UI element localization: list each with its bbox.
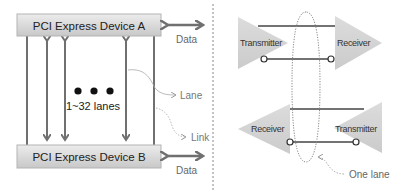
link-callout-label: Link bbox=[191, 132, 210, 143]
one-lane-callout-label: One lane bbox=[349, 169, 390, 180]
lane-count-label: 1~32 lanes bbox=[66, 100, 121, 112]
data-bottom-label: Data bbox=[176, 165, 198, 176]
inverting-node-icon bbox=[287, 139, 293, 145]
right-panel: Transmitter Receiver Receiver Transmitte… bbox=[238, 12, 390, 180]
data-top-label: Data bbox=[176, 34, 198, 45]
device-a-box: PCI Express Device A bbox=[17, 14, 161, 36]
inverting-node-icon bbox=[328, 56, 334, 62]
inverting-node-icon bbox=[261, 56, 267, 62]
bottom-transmitter-label: Transmitter bbox=[335, 124, 377, 134]
bottom-lane-pair: Receiver Transmitter bbox=[238, 102, 382, 154]
ellipsis-dots-icon bbox=[74, 87, 113, 94]
one-lane-callout-line bbox=[318, 157, 344, 174]
top-transmitter-label: Transmitter bbox=[240, 38, 282, 48]
device-a-label: PCI Express Device A bbox=[33, 20, 146, 32]
inverting-node-icon bbox=[353, 139, 359, 145]
one-lane-ellipse bbox=[292, 12, 320, 162]
top-receiver-label: Receiver bbox=[337, 38, 370, 48]
pcie-lane-link-diagram: PCI Express Device A PCI Express Device … bbox=[0, 0, 412, 193]
device-b-label: PCI Express Device B bbox=[32, 151, 145, 163]
bottom-receiver-label: Receiver bbox=[251, 124, 284, 134]
lane-callout-label: Lane bbox=[180, 90, 203, 101]
lane-callout-line bbox=[128, 70, 176, 95]
left-panel: PCI Express Device A PCI Express Device … bbox=[17, 14, 210, 176]
link-callout-line bbox=[156, 108, 186, 137]
device-b-box: PCI Express Device B bbox=[17, 145, 161, 168]
top-lane-pair: Transmitter Receiver bbox=[238, 16, 382, 70]
